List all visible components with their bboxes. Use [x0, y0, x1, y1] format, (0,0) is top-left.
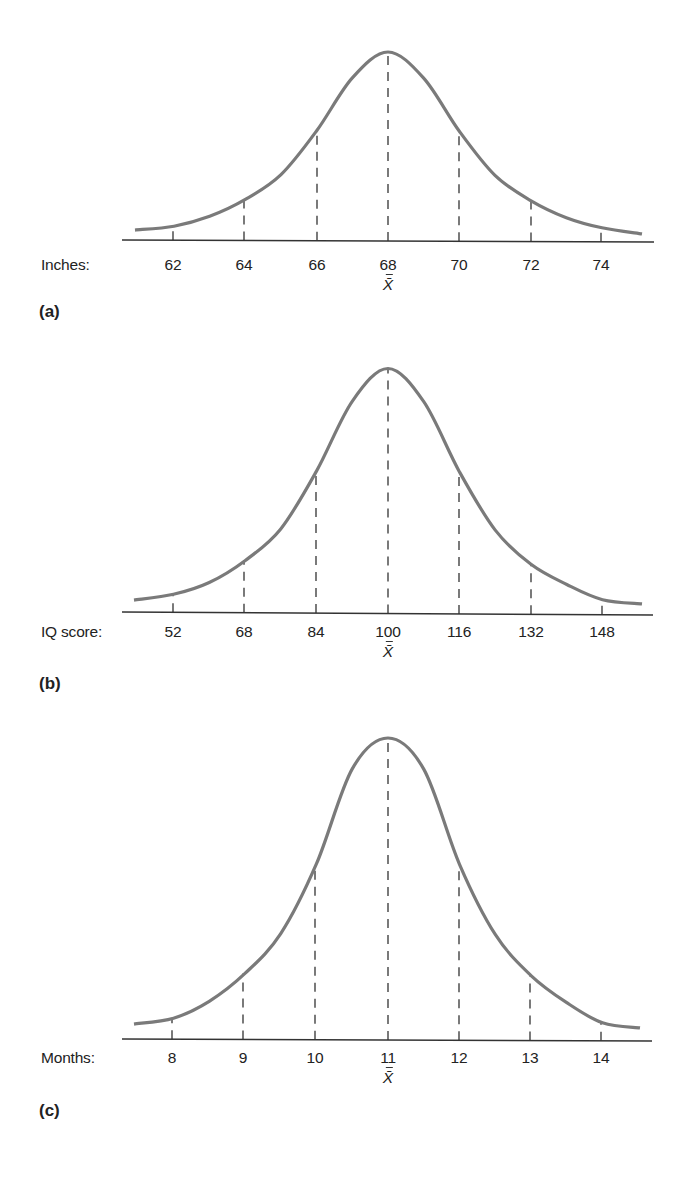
mean-label: X̄	[383, 1067, 393, 1087]
panel-c-plot	[0, 0, 693, 1182]
x-axis-line	[122, 1039, 652, 1041]
x-tick-label: 11	[380, 1049, 396, 1067]
x-tick-label: 13	[522, 1049, 539, 1067]
x-tick-label: 14	[593, 1049, 610, 1067]
x-tick-label: 8	[168, 1049, 176, 1067]
x-tick-label: 10	[307, 1049, 324, 1067]
x-axis-title: Months:	[41, 1049, 95, 1067]
x-tick-label: 9	[239, 1049, 247, 1067]
panel-label: (c)	[39, 1101, 60, 1121]
normal-curve	[134, 738, 640, 1028]
sd-dashed-lines	[172, 738, 601, 1041]
overbar	[386, 1067, 393, 1068]
mean-symbol: X̄	[383, 1069, 393, 1086]
x-tick-label: 12	[451, 1049, 468, 1067]
